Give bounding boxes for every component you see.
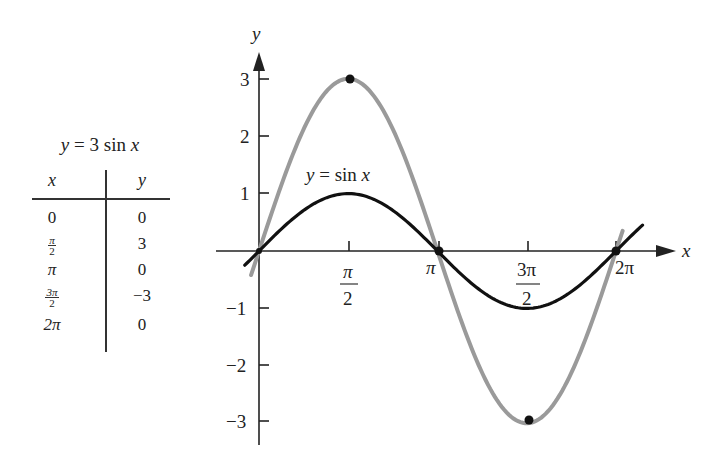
x-tick-label: 3π: [517, 259, 537, 280]
y-tick-label: −2: [226, 355, 246, 376]
y-tick-label: 1: [240, 183, 250, 204]
y-axis-label: y: [250, 23, 261, 44]
point-pi: [435, 247, 444, 256]
y-tick-label: 3: [240, 69, 250, 90]
point-2pi: [612, 247, 621, 256]
point-max: [346, 75, 355, 84]
graph: x y 3 2 1 −1 −2 −3 π 2 π 3π 2 2π y = s: [0, 0, 725, 475]
y-tick-label: 2: [240, 126, 250, 147]
y-tick-label: −1: [226, 298, 246, 319]
point-origin: [256, 248, 262, 254]
x-tick-den: 2: [522, 288, 532, 309]
x-ticks: [349, 241, 616, 251]
y-tick-label: −3: [226, 411, 246, 432]
x-tick-den: 2: [343, 288, 353, 309]
x-axis-label: x: [681, 240, 691, 261]
x-tick-label: 2π: [615, 257, 635, 278]
x-tick-label: π: [426, 257, 436, 278]
x-tick-label: π: [343, 261, 353, 282]
x-axis-arrow-icon: [656, 245, 676, 257]
curve-label: y = sin x: [304, 164, 371, 185]
y-axis-arrow-icon: [253, 52, 265, 71]
point-min: [525, 416, 534, 425]
